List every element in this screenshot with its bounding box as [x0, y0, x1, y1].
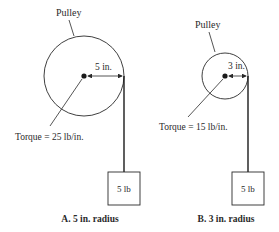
panel-a: Pulley 5 in. Torque = 25 lb/in. 5 lb A. … [15, 7, 140, 224]
axle-b [222, 73, 227, 78]
torque-label-b: Torque = 15 lb/in. [159, 122, 228, 132]
radius-label-a: 5 in. [95, 62, 112, 72]
radius-label-b: 3 in. [228, 61, 245, 71]
caption-b: B. 3 in. radius [198, 214, 255, 224]
axle-a [81, 73, 86, 78]
caption-a: A. 5 in. radius [61, 214, 119, 224]
weight-label-b: 5 lb [241, 184, 255, 194]
pulley-label-a: Pulley [56, 7, 82, 18]
torque-label-a: Torque = 25 lb/in. [15, 132, 84, 142]
weight-label-a: 5 lb [117, 184, 131, 194]
torque-leader-a [50, 79, 82, 126]
pulley-label-b: Pulley [195, 19, 221, 30]
pulley-leader-a [69, 20, 74, 36]
panel-b: Pulley 3 in. Torque = 15 lb/in. 5 lb B. … [159, 19, 264, 224]
pulley-diagram: Pulley 5 in. Torque = 25 lb/in. 5 lb A. … [0, 0, 279, 232]
pulley-leader-b [209, 32, 215, 52]
